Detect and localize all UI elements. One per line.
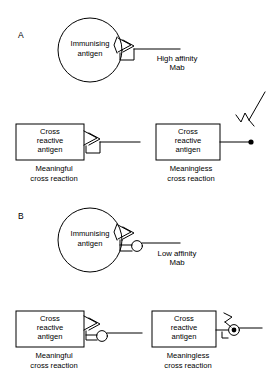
free-antibody-arm-right xyxy=(249,120,254,126)
caption-b2-line2: cross reaction xyxy=(164,362,211,371)
cross-reactive-antigen-a2-line3: antigen xyxy=(176,146,201,155)
detached-antibody-arms-b2 xyxy=(224,313,232,322)
cross-reactive-antigen-b1-line3: antigen xyxy=(38,333,63,342)
caption-b2-line1: Meaningless xyxy=(167,352,210,361)
mab-hinge-a1 xyxy=(86,142,100,153)
mab-arm-upper-b1 xyxy=(84,316,97,330)
mab-arm-upper-b xyxy=(118,225,131,239)
no-binding-terminal-dot-a2 xyxy=(248,139,253,144)
cross-reactive-antigen-b2-line3: antigen xyxy=(172,333,197,342)
panel-letter-a: A xyxy=(18,30,24,40)
immunising-antigen-label-a-line1: Immunising xyxy=(71,40,110,49)
mab-arm-upper-a1 xyxy=(84,131,97,145)
detached-antibody-foot-b2 xyxy=(222,332,228,338)
caption-a1-line2: cross reaction xyxy=(30,175,77,184)
free-antibody-stem xyxy=(249,92,265,120)
high-affinity-mab-label-line1: High affinity xyxy=(157,54,198,63)
caption-a2-line2: cross reaction xyxy=(167,175,214,184)
epitope-notch-a xyxy=(114,37,117,53)
cross-reactive-antigen-a1-line3: antigen xyxy=(38,146,63,155)
epitope-notch-b xyxy=(114,224,117,240)
low-affinity-mab-label-line1: Low affinity xyxy=(158,249,197,258)
no-binding-terminal-dot-b2 xyxy=(232,328,237,333)
low-affinity-loop-b xyxy=(132,241,143,252)
caption-a2-line1: Meaningless xyxy=(170,165,213,174)
low-affinity-loop-b1 xyxy=(97,331,108,342)
caption-a1-line1: Meaningful xyxy=(35,165,72,174)
caption-b1-line1: Meaningful xyxy=(35,352,72,361)
immunising-antigen-label-a-line2: antigen xyxy=(78,50,103,59)
free-antibody-arms xyxy=(236,113,249,122)
low-affinity-mab-label-line2: Mab xyxy=(169,258,184,267)
panel-letter-b: B xyxy=(18,211,24,221)
caption-b1-line2: cross reaction xyxy=(30,362,77,371)
immunology-cross-reactivity-figure: A Immunising antigen High affinity Mab C… xyxy=(0,0,275,389)
immunising-antigen-label-b-line2: antigen xyxy=(78,240,103,249)
high-affinity-mab-label-line2: Mab xyxy=(169,63,184,72)
immunising-antigen-label-b-line1: Immunising xyxy=(71,230,110,239)
